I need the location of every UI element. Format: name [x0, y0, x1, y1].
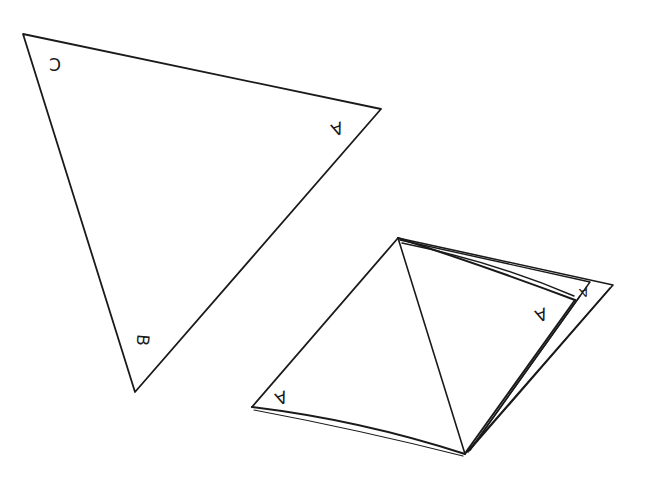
- center-fold-line: [398, 238, 465, 454]
- flap-right-edge-2: [470, 296, 580, 450]
- folding-diagram: C A B A A A: [0, 0, 654, 489]
- flap-top-edge-thick: [402, 243, 574, 296]
- triangle-outline: [23, 34, 381, 392]
- folded-piece: A A A: [252, 238, 613, 456]
- label-a: A: [328, 118, 346, 141]
- front-bottom-edge-lower: [254, 410, 463, 456]
- label-c: C: [49, 54, 61, 74]
- front-bottom-edge: [252, 407, 465, 454]
- front-left-edge: [252, 238, 398, 407]
- label-a-left: A: [272, 387, 290, 410]
- label-a-corner: A: [578, 283, 592, 300]
- flap-right-edge: [466, 300, 575, 452]
- label-a-right: A: [532, 304, 550, 327]
- label-b: B: [133, 333, 154, 346]
- flat-triangle: C A B: [23, 34, 381, 392]
